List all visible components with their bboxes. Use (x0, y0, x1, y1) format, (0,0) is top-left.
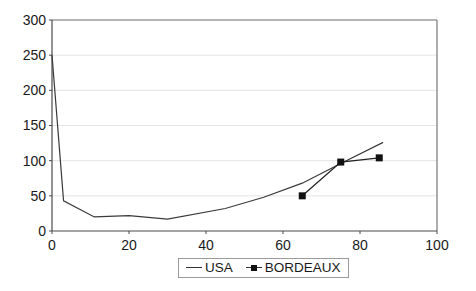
y-tick-label-250: 250 (4, 48, 46, 62)
x-tick-label-100: 100 (417, 238, 457, 252)
legend-item-bordeaux[interactable]: BORDEAUX (246, 261, 341, 275)
y-tick-label-100: 100 (4, 154, 46, 168)
chart-container: 300 250 200 150 100 50 0 0 20 40 60 80 1… (0, 0, 476, 291)
y-tick-label-50: 50 (4, 189, 46, 203)
chart-legend: USA BORDEAUX (178, 258, 349, 278)
legend-label-bordeaux: BORDEAUX (265, 261, 341, 275)
x-tick-label-20: 20 (109, 238, 149, 252)
y-tick-label-300: 300 (4, 13, 46, 27)
legend-label-usa: USA (205, 261, 233, 275)
series-line-usa (52, 55, 383, 219)
x-tick-label-80: 80 (340, 238, 380, 252)
gridlines (52, 55, 437, 196)
x-tick-label-60: 60 (263, 238, 303, 252)
legend-line-square-icon (246, 262, 262, 274)
legend-line-icon (186, 262, 202, 274)
y-tick-label-0: 0 (4, 224, 46, 238)
legend-item-usa[interactable]: USA (186, 261, 233, 275)
x-tick-label-40: 40 (186, 238, 226, 252)
x-tick-label-0: 0 (32, 238, 72, 252)
y-tick-label-200: 200 (4, 83, 46, 97)
y-tick-label-150: 150 (4, 118, 46, 132)
